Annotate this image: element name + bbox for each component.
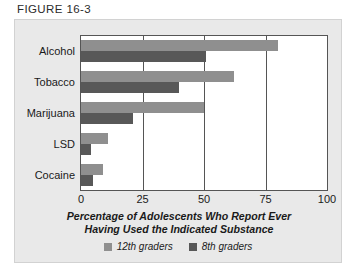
x-tick-label: 100 [318,193,336,205]
bar [81,71,234,82]
category-label: Tobacco [34,76,81,88]
bar [81,133,108,144]
category-label: Alcohol [39,45,81,57]
x-axis-title-line-2: Having Used the Indicated Substance [43,223,315,236]
bar-group: Tobacco [81,67,327,98]
bar [81,175,93,186]
bar [81,40,278,51]
bar [81,51,206,62]
legend-label: 12th graders [117,241,173,252]
x-tick-label: 50 [198,193,210,205]
legend-label: 8th graders [202,241,253,252]
bar [81,144,91,155]
bar-group: Marijuana [81,98,327,129]
legend-swatch-icon [104,243,112,251]
legend-item: 12th graders [104,241,173,252]
category-label: Cocaine [35,169,81,181]
legend-swatch-icon [189,243,197,251]
bar [81,102,204,113]
bar [81,82,179,93]
category-label: Marijuana [27,107,81,119]
bar-chart: AlcoholTobaccoMarijuanaLSDCocaine 025507… [80,35,328,191]
x-tick-label: 75 [259,193,271,205]
figure-panel: AlcoholTobaccoMarijuanaLSDCocaine 025507… [14,19,342,263]
bar [81,113,133,124]
legend-item: 8th graders [189,241,253,252]
bar-group: Cocaine [81,159,327,190]
figure-number: FIGURE 16-3 [17,3,91,15]
bar [81,164,103,175]
bar-group: Alcohol [81,36,327,67]
x-axis-title: Percentage of Adolescents Who Report Eve… [43,210,315,235]
bars-layer: AlcoholTobaccoMarijuanaLSDCocaine [81,36,327,190]
x-axis-title-line-1: Percentage of Adolescents Who Report Eve… [43,210,315,223]
chart-legend: 12th graders8th graders [15,241,341,252]
x-tick-label: 0 [78,193,84,205]
bar-group: LSD [81,128,327,159]
x-tick-label: 25 [136,193,148,205]
category-label: LSD [54,138,81,150]
